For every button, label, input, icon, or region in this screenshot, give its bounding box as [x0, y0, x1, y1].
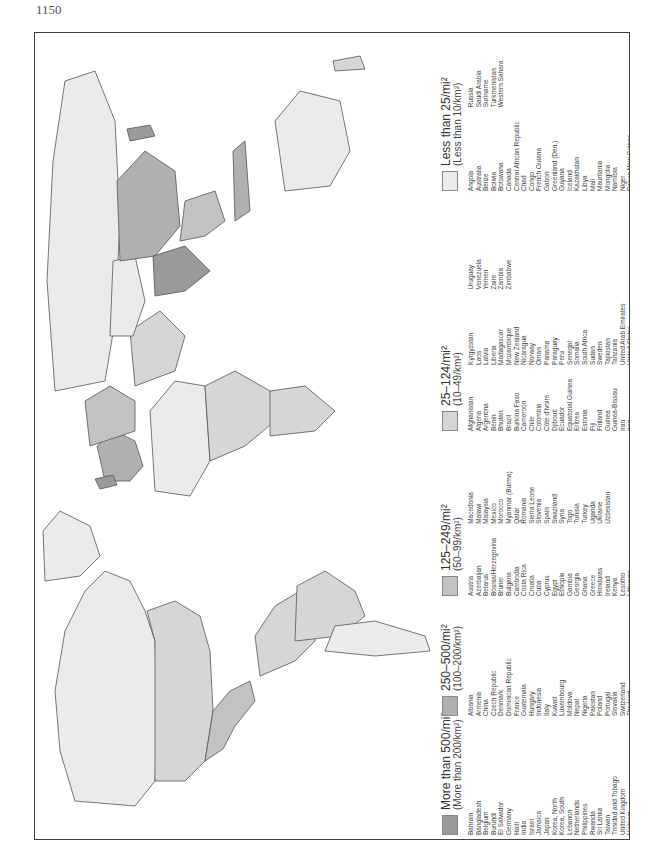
country-name: Cambodia — [513, 538, 521, 596]
country-name: Ecuador — [558, 379, 566, 431]
country-name: Mozambique — [505, 304, 513, 365]
country-name: Yemen — [482, 259, 490, 289]
country-name: Bangladesh — [475, 776, 483, 835]
country-name: Bolivia — [490, 121, 498, 191]
country-name: India — [520, 776, 528, 835]
country-name: Georgia — [573, 538, 581, 596]
country-name: Luxembourg — [558, 658, 566, 716]
country-name: Italy — [543, 658, 551, 716]
country-name: Lebanon — [566, 776, 574, 835]
country-name: Congo — [528, 121, 536, 191]
country-name: Morocco — [497, 471, 505, 523]
country-name: Armenia — [475, 658, 483, 716]
country-name: Lithuania — [626, 538, 630, 596]
country-name: Pakistan — [589, 658, 597, 716]
swatch-more-than-500 — [442, 815, 458, 835]
country-name: South Africa — [581, 304, 589, 365]
category-subtitle: (More than 200/km²) — [452, 713, 463, 810]
country-name: Iran — [619, 379, 627, 431]
country-name: Belize — [482, 121, 490, 191]
region-south-america-south — [325, 621, 430, 656]
country-name: Russia — [467, 60, 475, 107]
country-name: Finland — [596, 379, 604, 431]
legend-category-250-500: 250–500/mi² (100–200/km²) AlbaniaArmenia… — [440, 624, 630, 716]
country-name: Guinea — [604, 379, 612, 431]
country-name: Switzerland — [619, 658, 627, 716]
country-name: Argentina — [482, 379, 490, 431]
country-name: Cuba — [535, 538, 543, 596]
country-name: Costa Rica — [520, 538, 528, 596]
country-name: Egypt — [551, 538, 559, 596]
region-russia — [47, 71, 120, 391]
country-name: Spain — [543, 471, 551, 523]
country-name: Japan — [543, 776, 551, 835]
country-name: Belarus — [482, 538, 490, 596]
country-name: Ireland — [604, 538, 612, 596]
population-density-legend: More than 500/mi² (More than 200/km²) Ba… — [440, 33, 630, 840]
world-population-density-map — [35, 33, 455, 840]
country-name: Sierra Leone — [528, 471, 536, 523]
country-name: Philippines — [581, 776, 589, 835]
country-name: Paraguay — [551, 304, 559, 365]
country-name: Netherlands — [573, 776, 581, 835]
country-name: Thailand — [626, 658, 630, 716]
country-name: Burkina Faso — [513, 379, 521, 431]
country-name: Botswana — [497, 121, 505, 191]
country-name: Estonia — [581, 379, 589, 431]
country-name: Brazil — [505, 379, 513, 431]
country-name: Dominican Republic — [505, 658, 513, 716]
country-name: Burundi — [490, 776, 498, 835]
category-title: 125–249/mi² — [440, 504, 452, 571]
country-name: Gambia — [566, 538, 574, 596]
country-name: Swaziland — [551, 471, 559, 523]
country-name: Uruguay — [467, 259, 475, 289]
country-name: Guinea-Bissau — [611, 379, 619, 431]
country-name: Sweden — [596, 304, 604, 365]
country-list: UruguayVenezuelaYemenZaireZambiaZimbabwe — [467, 259, 630, 289]
country-name: Mauritania — [596, 121, 604, 191]
country-name: Kazakhstan — [573, 121, 581, 191]
country-name: Azerbaijan — [475, 538, 483, 596]
country-name: China — [482, 658, 490, 716]
country-name: Tanzania — [611, 304, 619, 365]
country-name: Angola — [467, 121, 475, 191]
country-name: Kuwait — [551, 658, 559, 716]
country-name: Belgium — [482, 776, 490, 835]
country-name: Venezuela — [475, 259, 483, 289]
country-name: Sri Lanka — [596, 776, 604, 835]
country-columns: AfghanistanAlgeriaArgentinaBeninBhutanBr… — [467, 259, 630, 431]
country-name: Kenya — [611, 538, 619, 596]
country-name: Tajikistan — [604, 304, 612, 365]
category-subtitle: (10–49/km²) — [452, 346, 463, 406]
country-name: Germany — [505, 776, 513, 835]
legend-category-25-124: 25–124/mi² (10–49/km²) AfghanistanAlgeri… — [440, 259, 630, 431]
country-name: Norway — [528, 304, 536, 365]
country-name: Denmark — [497, 658, 505, 716]
country-columns: AngolaAustraliaBelizeBoliviaBotswanaCana… — [467, 60, 630, 191]
country-name: Malawi — [475, 471, 483, 523]
country-list: AlbaniaArmeniaChinaCzech RepublicDenmark… — [467, 658, 630, 716]
country-columns: AustriaAzerbaijanBelarusBosnia/Herzegovi… — [467, 471, 630, 596]
country-name: Greece — [589, 538, 597, 596]
country-name: Papua New Guinea — [626, 121, 630, 191]
region-southern-africa — [270, 386, 335, 436]
country-name: Korea, North — [551, 776, 559, 835]
country-name: United Kingdom — [619, 776, 627, 835]
country-name: Canada — [505, 121, 513, 191]
country-list: MacedoniaMalawiMalaysiaMexicoMoroccoMyan… — [467, 471, 630, 523]
country-name: Cyprus — [543, 538, 551, 596]
country-name: Syria — [558, 471, 566, 523]
category-title: 250–500/mi² — [440, 624, 452, 691]
country-name: Albania — [467, 658, 475, 716]
country-list: BahrainBangladeshBelgiumBurundiEl Salvad… — [467, 776, 630, 835]
region-new-zealand — [333, 56, 365, 71]
region-canada — [55, 571, 157, 806]
country-name: Honduras — [596, 538, 604, 596]
country-name: Jamaica — [535, 776, 543, 835]
country-name: Lesotho — [619, 538, 627, 596]
country-name: Saudi Arabia — [475, 60, 483, 107]
country-name: Mexico — [490, 471, 498, 523]
country-name: Nigeria — [581, 658, 589, 716]
country-name: United Arab Emirates — [619, 304, 627, 365]
region-north-africa — [150, 381, 210, 496]
